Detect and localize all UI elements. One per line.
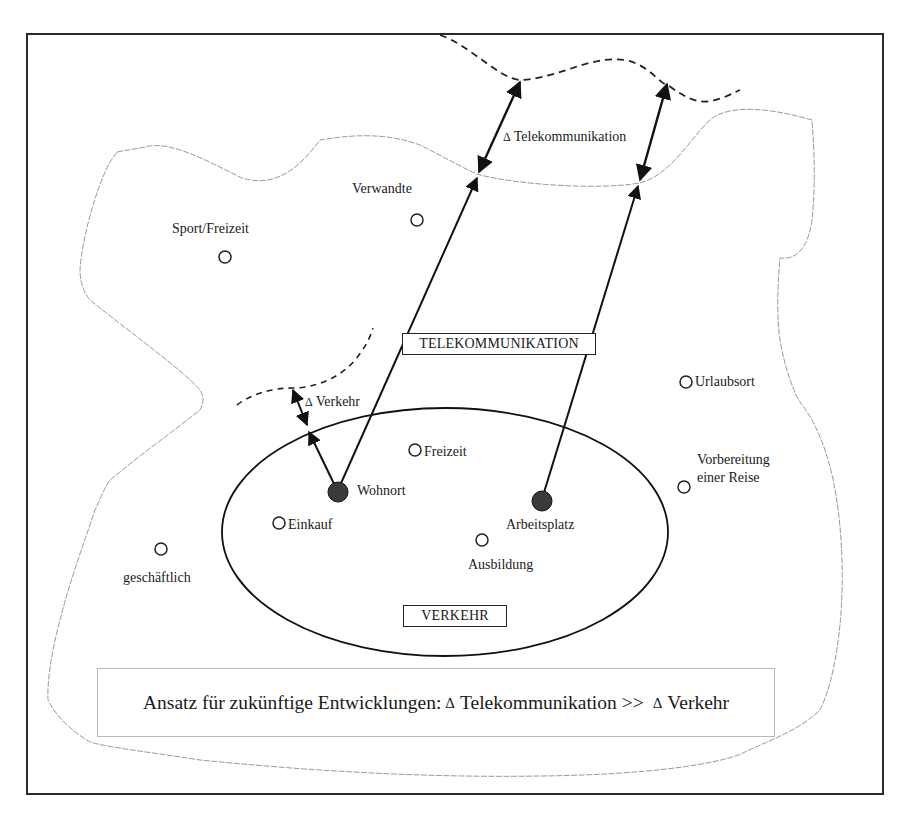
delta-telekommunikation-label: ΔTelekommunikation bbox=[503, 129, 626, 145]
delta-icon: Δ bbox=[653, 695, 663, 712]
delta-icon: Δ bbox=[503, 130, 511, 144]
verkehr-box-label: VERKEHR bbox=[421, 608, 489, 623]
wohnort-delta-telecom-arrow bbox=[479, 82, 520, 172]
geschaeftlich-label: geschäftlich bbox=[123, 570, 191, 586]
summary-box: Ansatz für zukünftige Entwicklungen: Δ T… bbox=[97, 668, 775, 737]
urlaubsort-marker bbox=[680, 376, 692, 388]
summary-right-term: Verkehr bbox=[667, 692, 729, 714]
telecom-reach-curve bbox=[440, 35, 740, 102]
wohnort-label: Wohnort bbox=[357, 483, 406, 499]
delta-icon: Δ bbox=[305, 395, 313, 409]
delta-verkehr-label: ΔVerkehr bbox=[305, 394, 360, 410]
arbeitsplatz-label: Arbeitsplatz bbox=[506, 517, 574, 533]
wohnort-node bbox=[328, 482, 348, 502]
vorbereitung-label-line2: einer Reise bbox=[697, 470, 760, 486]
wohnort-traffic-line bbox=[309, 432, 336, 488]
freizeit-label: Freizeit bbox=[424, 444, 467, 460]
urlaubsort-label: Urlaubsort bbox=[695, 374, 755, 390]
ausbildung-marker bbox=[476, 534, 488, 546]
vorbereitung-label-line1: Vorbereitung bbox=[697, 452, 770, 468]
vorbereitung-marker bbox=[678, 481, 690, 493]
summary-prefix: Ansatz für zukünftige Entwicklungen: bbox=[143, 692, 441, 714]
ausbildung-label: Ausbildung bbox=[468, 557, 533, 573]
freizeit-marker bbox=[409, 444, 421, 456]
verwandte-label: Verwandte bbox=[352, 181, 412, 197]
sport-freizeit-marker bbox=[219, 251, 231, 263]
delta-icon: Δ bbox=[445, 695, 455, 712]
einkauf-marker bbox=[273, 517, 285, 529]
summary-left-term: Telekommunikation >> bbox=[460, 692, 644, 714]
arbeitsplatz-delta-telecom-arrow bbox=[640, 84, 667, 180]
verwandte-marker bbox=[411, 214, 423, 226]
einkauf-label: Einkauf bbox=[288, 517, 332, 533]
geschaeftlich-marker bbox=[155, 543, 167, 555]
verkehr-box: VERKEHR bbox=[403, 605, 507, 627]
arbeitsplatz-node bbox=[532, 491, 552, 511]
telekommunikation-box-label: TELEKOMMUNIKATION bbox=[419, 336, 579, 351]
sport-freizeit-label: Sport/Freizeit bbox=[172, 221, 249, 237]
telekommunikation-box: TELEKOMMUNIKATION bbox=[402, 333, 596, 355]
